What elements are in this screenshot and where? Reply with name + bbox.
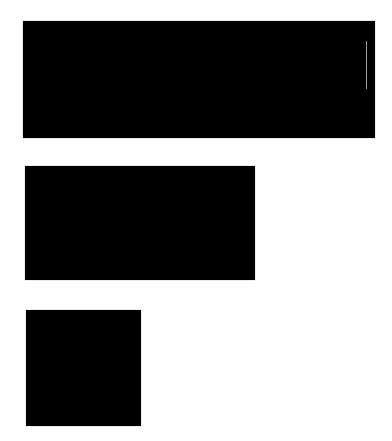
horizontal-bar-chart	[0, 0, 392, 441]
bar-1-highlight	[366, 41, 367, 89]
bar-1	[23, 21, 375, 138]
bar-3	[26, 310, 141, 426]
bar-2	[25, 166, 255, 280]
